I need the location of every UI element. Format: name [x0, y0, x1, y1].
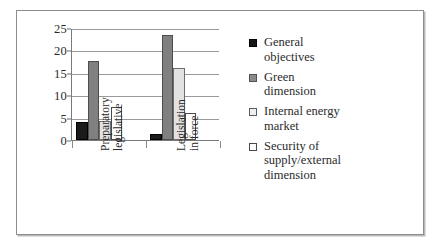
- legend-item[interactable]: Internal energymarket: [249, 104, 424, 134]
- chart-page: 0510152025 PreparatorylegislativeLegisla…: [0, 0, 440, 249]
- bar: [162, 35, 174, 140]
- legend-label-line: Internal energy: [264, 104, 340, 119]
- bar: [150, 134, 162, 140]
- legend-item[interactable]: Security ofsupply/externaldimension: [249, 139, 424, 183]
- x-axis-tick-mark: [220, 141, 221, 148]
- legend-label: Security ofsupply/externaldimension: [264, 139, 341, 183]
- bar: [88, 61, 100, 140]
- legend-label-line: dimension: [264, 84, 316, 99]
- y-axis-tick-label: 20: [41, 45, 67, 58]
- x-axis-category-label: Preparatorylegislative: [99, 97, 125, 151]
- legend-label-line: General: [264, 35, 315, 50]
- y-axis-tick-label: 25: [41, 23, 67, 36]
- gridline: [72, 51, 219, 52]
- legend-item[interactable]: Generalobjectives: [249, 35, 424, 65]
- legend-label-line: dimension: [264, 168, 341, 183]
- x-axis-category-label-line: Legislation: [175, 99, 188, 151]
- legend-label: Greendimension: [264, 70, 316, 100]
- x-axis-category-label-line: legislative: [112, 97, 125, 151]
- legend-swatch-icon: [249, 39, 257, 47]
- x-axis-category-label: Legislationin force: [175, 99, 201, 151]
- legend-label-line: market: [264, 119, 340, 134]
- y-axis-tick-label: 10: [41, 90, 67, 103]
- y-axis-tick-label: 0: [41, 135, 67, 148]
- legend-swatch-icon: [249, 143, 257, 151]
- legend-label-line: objectives: [264, 50, 315, 65]
- x-axis-tick-mark: [146, 141, 147, 148]
- y-axis-tick-label: 15: [41, 68, 67, 81]
- x-axis-category-label-line: in force: [188, 99, 201, 151]
- y-axis: 0510152025: [41, 29, 67, 141]
- bar: [76, 122, 88, 140]
- legend-label-line: supply/external: [264, 153, 341, 168]
- legend-swatch-icon: [249, 74, 257, 82]
- x-axis-tick-mark: [72, 141, 73, 148]
- plot-wrapper: 0510152025 PreparatorylegislativeLegisla…: [41, 29, 221, 219]
- y-axis-tick-label: 5: [41, 112, 67, 125]
- legend-label-line: Security of: [264, 139, 341, 154]
- figure-frame: 0510152025 PreparatorylegislativeLegisla…: [16, 10, 424, 235]
- legend-label: Internal energymarket: [264, 104, 340, 134]
- chart-legend: GeneralobjectivesGreendimensionInternal …: [249, 35, 424, 188]
- legend-label-line: Green: [264, 70, 316, 85]
- gridline: [72, 29, 219, 30]
- legend-item[interactable]: Greendimension: [249, 70, 424, 100]
- legend-label: Generalobjectives: [264, 35, 315, 65]
- legend-swatch-icon: [249, 108, 257, 116]
- x-axis-category-label-line: Preparatory: [99, 97, 112, 151]
